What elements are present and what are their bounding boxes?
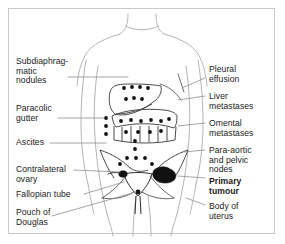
leader-fallopian-tube: [84, 182, 124, 194]
leader-omental-metastases: [178, 123, 205, 126]
label-primary-tumour: Primary tumour: [209, 177, 241, 196]
leader-lines-right: [178, 78, 205, 205]
label-ascites: Ascites: [16, 138, 44, 148]
deposit-omental: [119, 119, 123, 123]
leader-liver-metastases: [178, 96, 205, 100]
omentum-and-colon: [112, 109, 177, 143]
deposit-ascites: [125, 156, 129, 160]
deposit-omental: [159, 129, 163, 133]
label-body-of-uterus: Body of uterus: [209, 202, 239, 221]
label-fallopian-tube: Fallopian tube: [16, 190, 71, 200]
deposit-ascites: [134, 156, 138, 160]
deposit-omental: [149, 118, 153, 122]
label-pouch-of-douglas: Pouch of Douglas: [16, 208, 50, 227]
deposit-subdiaphragmatic: [138, 85, 142, 89]
label-subdiaphragmatic-nodules: Subdiaphrag- matic nodules: [16, 57, 68, 86]
deposit-omental: [129, 118, 133, 122]
leader-primary-tumour: [178, 176, 205, 178]
deposit-ascites: [133, 147, 137, 151]
deposit-liver: [124, 97, 128, 101]
deposit-omental: [148, 130, 152, 134]
deposit-pelvic-node: [118, 162, 122, 166]
deposit-omental: [139, 119, 143, 123]
deposit-omental: [136, 130, 140, 134]
leader-contralateral-ovary: [74, 170, 120, 172]
deposit-subdiaphragmatic: [130, 85, 134, 89]
deposit-ascites: [133, 139, 137, 143]
leader-body-of-uterus: [186, 198, 205, 205]
deposit-pelvic-node: [150, 162, 154, 166]
deposit-omental: [167, 117, 171, 121]
figure-canvas: Subdiaphrag- matic nodules Paracolic gut…: [0, 0, 285, 244]
deposit-paracolic: [104, 116, 108, 120]
label-paracolic-gutter: Paracolic gutter: [16, 104, 52, 123]
deposit-omental: [159, 119, 163, 123]
label-omental-metastases: Omental metastases: [209, 119, 253, 138]
deposit-omental: [124, 130, 128, 134]
deposit-liver: [132, 96, 136, 100]
deposit-paracolic: [104, 124, 108, 128]
costal-margin: [160, 74, 184, 100]
deposit-ascites: [143, 156, 147, 160]
label-para-aortic-pelvic-nodes: Para-aortic and pelvic nodes: [209, 146, 252, 175]
label-pleural-effusion: Pleural effusion: [209, 65, 239, 84]
label-contralateral-ovary: Contralateral ovary: [16, 165, 66, 184]
metastatic-deposits: [104, 85, 171, 166]
deposit-liver: [140, 97, 144, 101]
deposit-paracolic: [104, 132, 108, 136]
primary-tumour-mass: [153, 167, 176, 183]
label-liver-metastases: Liver metastases: [209, 92, 253, 111]
deposit-subdiaphragmatic: [146, 86, 150, 90]
deposit-subdiaphragmatic: [122, 86, 126, 90]
